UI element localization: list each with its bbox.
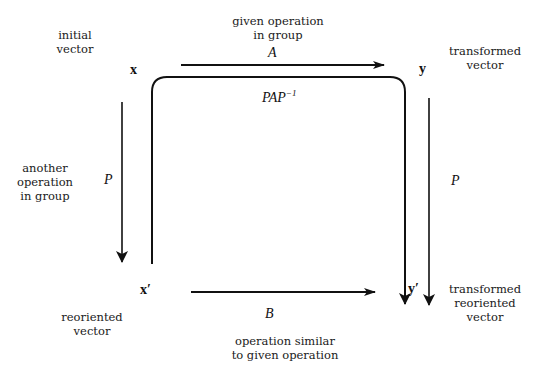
label-operation-similar: operation similar to given operation (210, 334, 360, 362)
edge-label-P-left: P (104, 172, 113, 188)
commutative-diagram: x y x′ y′ initial vector transformed vec… (0, 0, 544, 371)
node-x-prime: x′ (140, 282, 151, 298)
label-another-operation: another operation in group (10, 161, 80, 203)
node-y: y (419, 61, 426, 77)
label-given-operation: given operation in group (218, 14, 338, 42)
label-initial-vector: initial vector (40, 28, 110, 56)
arrow-PAP-inverse (152, 77, 405, 304)
label-reoriented-vector: reoriented vector (52, 310, 132, 338)
node-x: x (130, 62, 137, 78)
node-y-prime: y′ (408, 281, 419, 297)
edge-label-A: A (268, 45, 277, 61)
edge-label-P-right: P (451, 173, 460, 189)
label-transformed-vector: transformed vector (440, 44, 530, 72)
label-transformed-reoriented-vector: transformed reoriented vector (440, 282, 530, 324)
edge-label-B: B (265, 306, 274, 322)
edge-label-PAP-inverse: PAP−1 (262, 88, 296, 106)
